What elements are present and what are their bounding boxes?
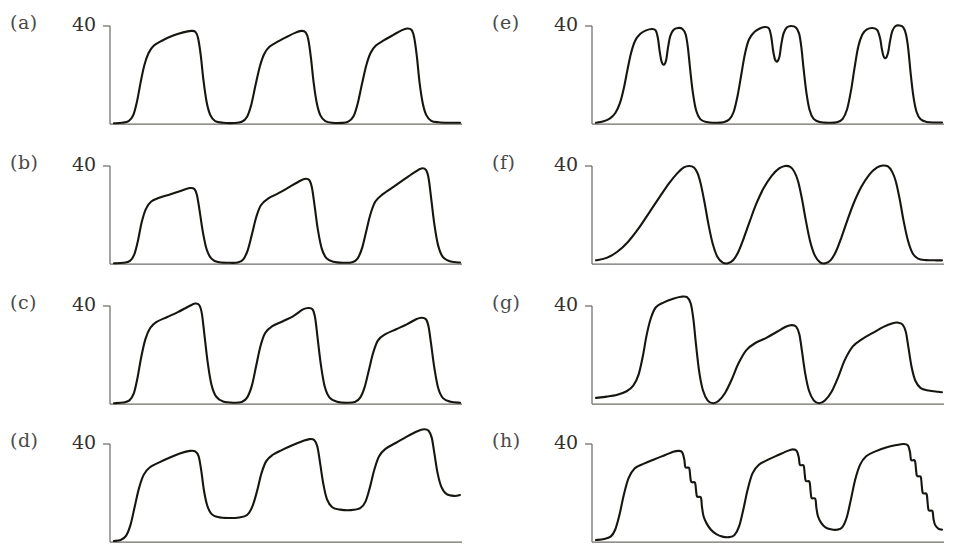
waveform-curve-h [596,444,942,540]
panel-d: (d)40 [0,418,482,558]
waveform-curve-a [114,28,460,123]
waveform-curve-c [114,303,460,403]
plot-e [482,0,964,140]
panel-f: (f)40 [482,140,964,280]
waveform-curve-g [596,296,942,403]
plot-h [482,418,964,558]
plot-c [0,280,482,420]
waveform-curve-e [596,25,942,122]
plot-a [0,0,482,140]
panel-e: (e)40 [482,0,964,140]
panel-g: (g)40 [482,280,964,420]
plot-f [482,140,964,280]
waveform-curve-d [114,429,460,541]
waveform-curve-f [596,165,942,263]
panel-a: (a)40 [0,0,482,140]
waveform-curve-b [114,168,460,263]
figure-panel-grid: (a)40(b)40(c)40(d)40(e)40(f)40(g)40(h)40 [0,0,964,558]
plot-g [482,280,964,420]
panel-h: (h)40 [482,418,964,558]
panel-b: (b)40 [0,140,482,280]
panel-c: (c)40 [0,280,482,420]
plot-b [0,140,482,280]
plot-d [0,418,482,558]
